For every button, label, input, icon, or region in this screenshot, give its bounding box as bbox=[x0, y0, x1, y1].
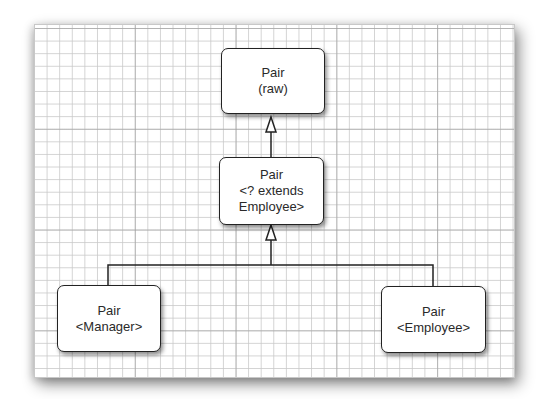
hollow-arrowhead-icon bbox=[266, 117, 276, 132]
node-pair-raw: Pair (raw) bbox=[221, 48, 325, 114]
node-pair-employee: Pair <Employee> bbox=[381, 286, 486, 353]
node-pair-manager: Pair <Manager> bbox=[57, 285, 161, 352]
node-label: (raw) bbox=[258, 81, 288, 97]
node-label: <Employee> bbox=[397, 320, 470, 336]
node-label: Pair bbox=[260, 167, 283, 183]
node-label: <? extends bbox=[240, 183, 304, 199]
node-pair-wildcard-employee: Pair <? extends Employee> bbox=[219, 157, 324, 225]
node-label: Employee> bbox=[239, 199, 304, 215]
node-label: Pair bbox=[97, 303, 120, 319]
hollow-arrowhead-icon bbox=[266, 225, 276, 240]
node-label: Pair bbox=[261, 65, 284, 81]
edge-branch-manager-employee bbox=[108, 265, 433, 287]
node-label: Pair bbox=[422, 304, 445, 320]
node-label: <Manager> bbox=[76, 319, 143, 335]
